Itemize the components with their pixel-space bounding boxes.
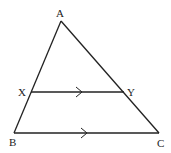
side-ac bbox=[61, 21, 159, 133]
point-label-y: Y bbox=[127, 86, 135, 98]
vertex-label-c: C bbox=[157, 137, 164, 149]
vertex-label-a: A bbox=[56, 7, 64, 19]
triangle-diagram: A X Y B C bbox=[0, 0, 171, 153]
diagram-canvas: A X Y B C bbox=[0, 0, 171, 153]
side-ab bbox=[14, 21, 61, 133]
point-label-x: X bbox=[18, 86, 26, 98]
vertex-label-b: B bbox=[9, 136, 16, 148]
